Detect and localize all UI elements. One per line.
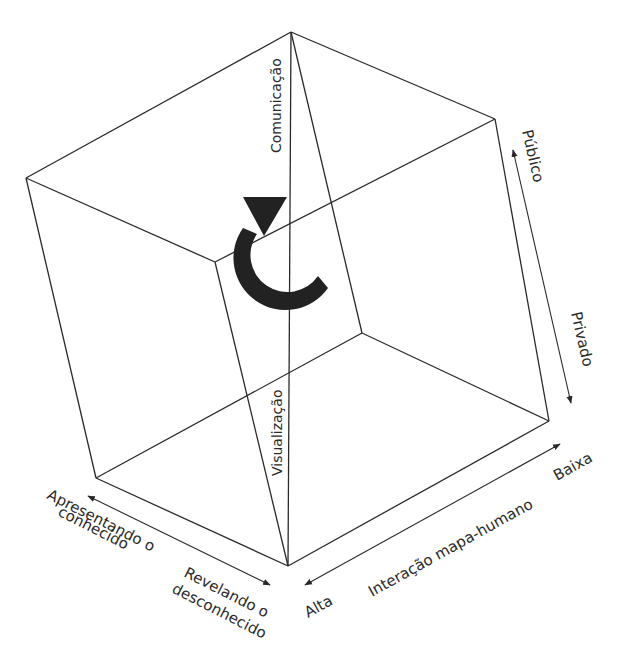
- label-alta: Alta: [301, 591, 336, 621]
- cube-edge-left-bottom-left: [26, 178, 96, 478]
- label-comunicacao: Comunicação: [268, 58, 284, 153]
- cube-edge-inner-bottom-right-bottom-left: [96, 333, 362, 478]
- right-axis-arrow: [513, 150, 571, 403]
- label-publico: Público: [518, 128, 548, 184]
- rotation-arrowhead: [243, 197, 287, 236]
- rotation-arrow-body: [233, 228, 328, 310]
- label-interacao-mapa-humano: Interação mapa-humano: [365, 495, 536, 601]
- cube-edge-bottom-bottom-right: [288, 421, 549, 566]
- map-use-cube-diagram: Comunicação Visualização Público Privado…: [0, 0, 626, 662]
- label-visualizacao: Visualização: [269, 390, 285, 476]
- label-privado: Privado: [567, 310, 597, 369]
- label-baixa: Baixa: [550, 449, 595, 485]
- rotation-arrow-icon: [233, 197, 328, 310]
- cube-edge-left-inner: [26, 178, 215, 262]
- cube-edge-top-right: [291, 32, 495, 119]
- cube-edge-top-left: [26, 32, 291, 178]
- cube-edge-inner-right: [215, 119, 495, 262]
- cube-edge-inner-bottom-right-bottom-right: [362, 333, 549, 421]
